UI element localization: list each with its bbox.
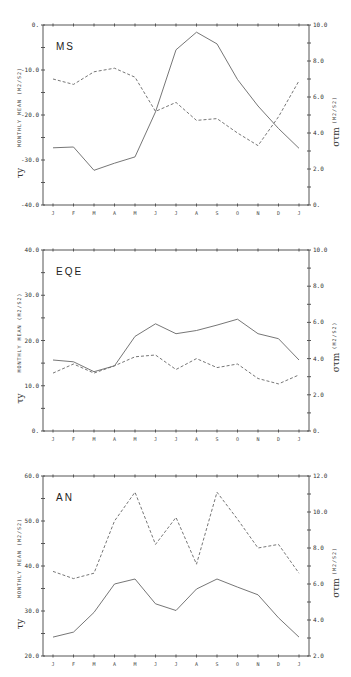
y-tick-label-left: -30.0 <box>21 156 39 163</box>
mean-line <box>53 319 299 372</box>
y-tick-label-left: -40.0 <box>21 201 39 208</box>
x-tick-label: J <box>154 210 157 216</box>
x-tick-label: J <box>51 661 54 667</box>
y-tick-label-left: 20.0 <box>25 652 40 659</box>
y-tick-label-left: -10.0 <box>21 66 39 73</box>
y-axis-label-left: MONTHLY MEAN (M2/S2) <box>16 518 22 598</box>
x-tick-label: F <box>72 661 75 667</box>
x-tick-label: J <box>174 661 177 667</box>
y-axis-label-left: MONTHLY MEAN (M2/S2) <box>16 292 22 372</box>
x-tick-label: F <box>72 436 75 442</box>
x-tick-label: S <box>215 436 218 442</box>
y-tick-label-right: 2.0 <box>313 391 324 398</box>
x-tick-label: N <box>256 436 259 442</box>
panel-label: MS <box>56 41 75 52</box>
y-tick-label-left: 0. <box>32 427 39 434</box>
y-tick-label-right: 4.0 <box>313 129 324 136</box>
x-tick-label: S <box>215 210 218 216</box>
y-tick-label-left: 0. <box>32 21 39 28</box>
x-tick-label: A <box>195 661 198 667</box>
y-tick-label-right: 4.0 <box>313 355 324 362</box>
y-axis-symbol-right: στm <box>331 352 341 372</box>
x-tick-label: A <box>113 210 116 216</box>
y-axis-symbol-left: τy <box>15 393 25 404</box>
y-axis-symbol-right: στm <box>331 578 341 598</box>
x-tick-label: O <box>236 661 239 667</box>
y-tick-label-right: 2.0 <box>313 165 324 172</box>
y-tick-label-right: 2.0 <box>313 652 324 659</box>
y-axis-label-left: MONTHLY MEAN (M2/S2) <box>16 67 22 147</box>
panel-label: EQE <box>56 266 83 277</box>
y-tick-label-right: 8.0 <box>313 544 324 551</box>
x-tick-label: A <box>113 436 116 442</box>
figure: JFMAMJJASONDJ0.-10.0-20.0-30.0-40.010.08… <box>0 0 351 677</box>
x-tick-label: M <box>133 661 136 667</box>
x-tick-label: A <box>113 661 116 667</box>
y-tick-label-left: 40.0 <box>25 562 40 569</box>
mean-line <box>53 579 299 637</box>
y-axis-label-right: (M2/S2) <box>331 96 337 124</box>
y-tick-label-right: 10.0 <box>313 508 328 515</box>
x-tick-label: S <box>215 661 218 667</box>
chart-panel-eqe: JFMAMJJASONDJ40.030.020.010.00.10.08.06.… <box>15 246 341 442</box>
y-tick-label-left: 30.0 <box>25 291 40 298</box>
y-tick-label-right: 4.0 <box>313 616 324 623</box>
y-tick-label-right: 6.0 <box>313 318 324 325</box>
x-tick-label: J <box>154 436 157 442</box>
x-tick-label: O <box>236 210 239 216</box>
y-tick-label-left: -20.0 <box>21 111 39 118</box>
y-tick-label-right: 0. <box>313 201 320 208</box>
y-tick-label-right: 10.0 <box>313 21 328 28</box>
y-axis-symbol-right: στm <box>331 127 341 147</box>
y-tick-label-left: 10.0 <box>25 382 40 389</box>
x-tick-label: M <box>92 210 95 216</box>
x-tick-label: J <box>154 661 157 667</box>
chart-panel-an: JFMAMJJASONDJ60.050.040.030.020.012.010.… <box>15 472 341 667</box>
x-tick-label: J <box>174 210 177 216</box>
panel-label: AN <box>56 492 74 503</box>
y-tick-label-left: 30.0 <box>25 607 40 614</box>
y-tick-label-left: 20.0 <box>25 337 40 344</box>
y-tick-label-right: 10.0 <box>313 246 328 253</box>
x-tick-label: J <box>297 210 300 216</box>
y-tick-label-right: 8.0 <box>313 57 324 64</box>
x-tick-label: D <box>277 436 280 442</box>
y-axis-symbol-left: τy <box>15 167 25 178</box>
x-tick-label: N <box>256 661 259 667</box>
x-tick-label: M <box>133 436 136 442</box>
x-tick-label: J <box>174 436 177 442</box>
x-tick-label: J <box>51 210 54 216</box>
x-tick-label: D <box>277 661 280 667</box>
x-tick-label: M <box>92 436 95 442</box>
chart-panel-ms: JFMAMJJASONDJ0.-10.0-20.0-30.0-40.010.08… <box>15 21 341 216</box>
x-tick-label: J <box>51 436 54 442</box>
x-tick-label: M <box>92 661 95 667</box>
y-tick-label-right: 6.0 <box>313 93 324 100</box>
y-axis-label-right: (M2/S2) <box>331 547 337 575</box>
y-tick-label-left: 60.0 <box>25 472 40 479</box>
y-tick-label-right: 8.0 <box>313 282 324 289</box>
y-tick-label-right: 0. <box>313 427 320 434</box>
x-tick-label: O <box>236 436 239 442</box>
y-tick-label-left: 40.0 <box>25 246 40 253</box>
x-tick-label: M <box>133 210 136 216</box>
x-tick-label: A <box>195 210 198 216</box>
x-tick-label: A <box>195 436 198 442</box>
y-tick-label-right: 12.0 <box>313 472 328 479</box>
y-tick-label-right: 6.0 <box>313 580 324 587</box>
x-tick-label: D <box>277 210 280 216</box>
x-tick-label: J <box>297 661 300 667</box>
x-tick-label: N <box>256 210 259 216</box>
x-tick-label: F <box>72 210 75 216</box>
y-tick-label-left: 50.0 <box>25 517 40 524</box>
sigma-line <box>53 68 299 145</box>
y-axis-symbol-left: τy <box>15 618 25 629</box>
y-axis-label-right: (M2/S2) <box>331 321 337 349</box>
sigma-line <box>53 492 299 578</box>
mean-line <box>53 32 299 170</box>
x-tick-label: J <box>297 436 300 442</box>
